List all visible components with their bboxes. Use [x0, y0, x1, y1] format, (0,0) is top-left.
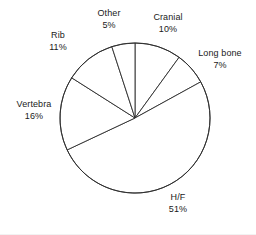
slice-label-other: Other 5%: [86, 8, 132, 31]
slice-label-rib-name: Rib: [38, 30, 78, 42]
slice-label-other-name: Other: [86, 8, 132, 20]
slice-label-rib: Rib 11%: [38, 30, 78, 53]
slice-label-long-bone: Long bone 7%: [190, 48, 250, 71]
slice-label-vertebra: Vertebra 16%: [6, 99, 62, 122]
pie-slice-group: [60, 43, 210, 193]
slice-label-cranial-name: Cranial: [143, 12, 193, 24]
slice-label-long-bone-name: Long bone: [190, 48, 250, 60]
slice-label-hf: H/F 51%: [158, 192, 198, 215]
slice-label-vertebra-percent: 16%: [6, 111, 62, 123]
slice-label-hf-percent: 51%: [158, 204, 198, 216]
slice-label-long-bone-percent: 7%: [190, 60, 250, 72]
slice-label-other-percent: 5%: [86, 20, 132, 32]
slice-label-cranial-percent: 10%: [143, 24, 193, 36]
slice-label-hf-name: H/F: [158, 192, 198, 204]
slice-label-cranial: Cranial 10%: [143, 12, 193, 35]
pie-chart-figure: Other 5% Cranial 10% Long bone 7% Rib 11…: [0, 0, 256, 235]
slice-label-vertebra-name: Vertebra: [6, 99, 62, 111]
slice-label-rib-percent: 11%: [38, 42, 78, 54]
bottom-rule: [0, 234, 256, 235]
